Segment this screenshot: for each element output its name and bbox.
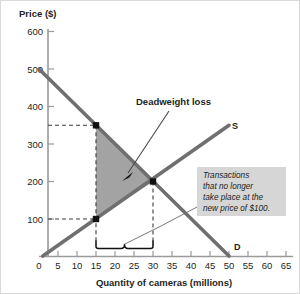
x-ticklabel-5: 5 [55,260,60,271]
note-line-4: new price of $100. [203,204,270,213]
point-market-equilibrium [150,178,156,184]
deadweight-loss-label: Deadweight loss [136,96,211,107]
x-ticklabel-45: 45 [205,260,216,271]
y-ticklabel-300: 300 [27,139,43,150]
point-demand-at-15 [93,122,99,128]
x-ticklabel-55: 55 [243,260,254,271]
x-ticklabel-10: 10 [72,260,83,271]
x-ticklabel-30: 30 [148,260,159,271]
y-ticklabel-100: 100 [27,214,43,225]
y-axis-tick-labels: 600 500 400 300 200 100 [27,26,43,225]
note-leader-line [125,207,198,244]
x-ticklabel-20: 20 [110,260,121,271]
supply-curve-label: S [232,121,238,131]
x-ticklabel-25: 25 [129,260,140,271]
demand-curve-label: D [234,242,241,252]
economics-supply-demand-figure: Price ($) 600 500 400 300 200 100 [0,0,300,294]
x-ticklabel-0: 0 [36,260,41,271]
chart-canvas: Price ($) 600 500 400 300 200 100 [1,1,300,294]
x-ticklabel-35: 35 [167,260,178,271]
x-ticklabel-50: 50 [224,260,235,271]
x-axis-tick-labels: 0 5 10 15 20 25 30 35 40 45 50 55 60 65 [36,260,291,271]
y-ticklabel-200: 200 [27,176,43,187]
x-ticklabel-60: 60 [262,260,273,271]
point-supply-at-15 [93,216,99,222]
note-line-2: that no longer [203,182,253,191]
deadweight-loss-leader-line [128,111,169,173]
note-line-3: take place at the [203,193,264,202]
y-axis-title: Price ($) [19,8,57,19]
note-line-1: Transactions [203,171,249,180]
lost-transactions-brace [96,241,153,249]
x-ticklabel-40: 40 [186,260,197,271]
y-ticklabel-600: 600 [27,26,43,37]
x-axis-title: Quantity of cameras (millions) [96,277,232,288]
x-ticklabel-65: 65 [281,260,292,271]
y-ticklabel-400: 400 [27,101,43,112]
x-ticklabel-15: 15 [91,260,102,271]
